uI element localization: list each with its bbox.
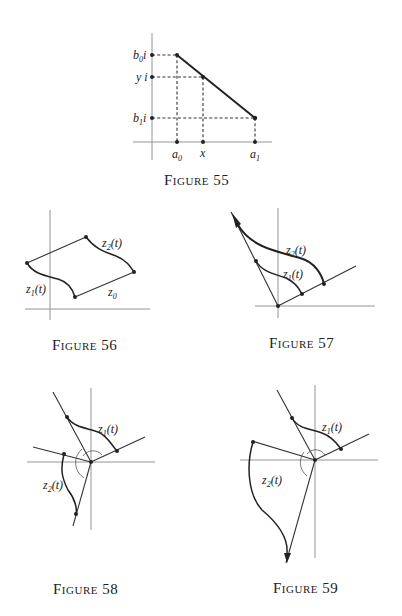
label-b0i: b0i [133,48,146,64]
figure-56: z2(t) z1(t) z0 [25,210,150,320]
label-x: x [199,146,206,160]
caption-figure-59: Figure 59 [273,580,338,597]
figure-57: z2(t) z1(t) [231,208,375,318]
label-z2t: z2(t) [261,473,282,489]
figure-55-diagram: b0i y i b1i a0 x a1 z2(t) z1(t) z0 z2(t)… [0,0,402,616]
caption-figure-55: Figure 55 [164,172,229,189]
label-z1t: z1(t) [282,267,303,283]
label-z0: z0 [107,285,117,301]
figure-58: z1(t) z2(t) [27,388,155,530]
label-z2t: z2(t) [42,478,63,494]
segment [177,55,255,118]
label-a1: a1 [250,147,260,163]
label-z1t: z1(t) [97,422,118,438]
label-z1t: z1(t) [321,420,342,436]
figure-59: z1(t) z2(t) [240,385,378,563]
label-z2t: z2(t) [101,236,122,252]
caption-figure-57: Figure 57 [269,335,334,352]
figure-55: b0i y i b1i a0 x a1 [133,33,272,163]
label-yi: y i [135,70,148,84]
label-z1t: z1(t) [25,282,46,298]
label-z2t: z2(t) [285,243,306,259]
label-b1i: b1i [133,111,146,127]
caption-figure-56: Figure 56 [52,337,117,354]
label-a0: a0 [172,147,182,163]
caption-figure-58: Figure 58 [53,581,118,598]
